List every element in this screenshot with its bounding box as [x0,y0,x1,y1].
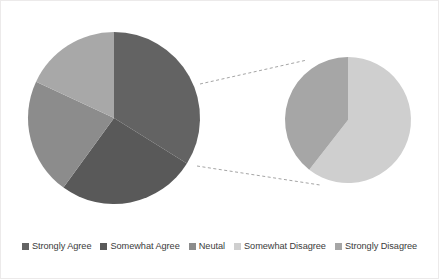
legend-item-2[interactable]: Neutal [189,242,225,251]
legend-item-label: Neutal [199,242,225,251]
legend-swatch-icon [189,243,196,250]
legend-item-label: Strongly Disagree [345,242,417,251]
chart-canvas [0,0,439,232]
legend-item-label: Strongly Agree [32,242,92,251]
chart-legend: Strongly AgreeSomewhat AgreeNeutalSomewh… [0,232,439,262]
legend-item-label: Somewhat Agree [110,242,179,251]
legend-item-4[interactable]: Strongly Disagree [335,242,417,251]
lower-connector [197,166,320,185]
upper-connector [200,60,307,84]
secondary-pie [285,57,411,183]
legend-swatch-icon [234,243,241,250]
primary-pie [28,32,200,204]
legend-item-3[interactable]: Somewhat Disagree [234,242,326,251]
legend-item-1[interactable]: Somewhat Agree [100,242,179,251]
legend-swatch-icon [335,243,342,250]
legend-swatch-icon [100,243,107,250]
pie-of-pie-chart: Strongly AgreeSomewhat AgreeNeutalSomewh… [0,0,439,279]
legend-item-0[interactable]: Strongly Agree [22,242,92,251]
legend-item-label: Somewhat Disagree [244,242,326,251]
legend-swatch-icon [22,243,29,250]
plot-area [0,0,439,232]
